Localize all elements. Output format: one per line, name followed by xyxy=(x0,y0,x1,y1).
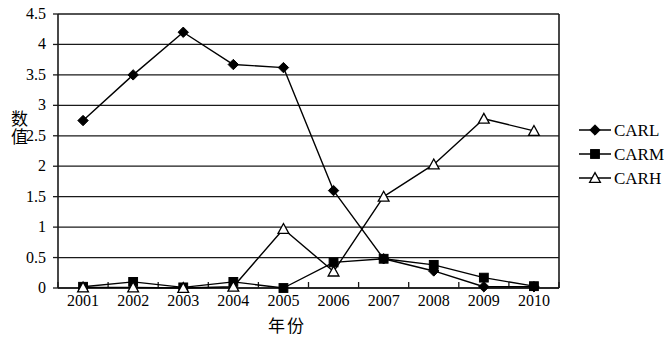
legend-marker-open-triangle xyxy=(578,169,612,187)
y-axis-tick-label: 2.5 xyxy=(0,127,46,145)
legend-marker-filled-square xyxy=(578,145,612,163)
x-axis-tick-label: 2007 xyxy=(368,292,400,310)
series-carl xyxy=(78,27,539,292)
x-axis-tick-label: 2008 xyxy=(418,292,450,310)
plot-area xyxy=(0,0,669,339)
data-point-marker-triangle xyxy=(478,113,489,123)
y-axis-tick-label: 4.5 xyxy=(0,5,46,23)
y-axis-tick-label: 0.5 xyxy=(0,249,46,267)
series-line xyxy=(83,32,534,287)
legend-label: CARM xyxy=(614,146,664,163)
y-axis-tick-label: 4 xyxy=(0,35,46,53)
x-axis-tick-label: 2001 xyxy=(67,292,99,310)
y-axis-tick-label: 3.5 xyxy=(0,66,46,84)
axes xyxy=(58,14,559,288)
data-point-marker-diamond xyxy=(479,282,489,292)
y-axis-tick-label: 0 xyxy=(0,279,46,297)
data-series-layer xyxy=(78,27,540,292)
y-axis-tick-label: 1.5 xyxy=(0,188,46,206)
legend-marker-filled-diamond xyxy=(578,121,612,139)
data-point-marker-diamond xyxy=(590,125,600,135)
y-axis-tick-label: 1 xyxy=(0,218,46,236)
series-line xyxy=(83,119,534,288)
legend-item-carh[interactable]: CARH xyxy=(578,166,664,190)
data-point-marker-diamond xyxy=(228,59,238,69)
x-axis-tick-label: 2005 xyxy=(267,292,299,310)
data-point-marker-square xyxy=(479,273,488,282)
x-axis-tick-label: 2002 xyxy=(117,292,149,310)
legend-item-carl[interactable]: CARL xyxy=(578,118,664,142)
legend: CARLCARMCARH xyxy=(578,118,664,190)
gridlines xyxy=(53,14,559,288)
legend-label: CARL xyxy=(614,122,659,139)
x-axis-tick-label: 2006 xyxy=(318,292,350,310)
y-axis-tick-label: 3 xyxy=(0,96,46,114)
data-point-marker-diamond xyxy=(328,185,338,195)
data-point-marker-triangle xyxy=(278,224,289,234)
x-axis-tick-label: 2004 xyxy=(217,292,249,310)
x-axis-tick-label: 2003 xyxy=(167,292,199,310)
data-point-marker-square xyxy=(530,282,539,291)
line-chart: 数值 年份 00.511.522.533.544.5 2001200220032… xyxy=(0,0,669,339)
data-point-marker-square xyxy=(591,150,600,159)
x-axis-tick-label: 2009 xyxy=(468,292,500,310)
legend-label: CARH xyxy=(614,170,661,187)
x-axis-title: 年份 xyxy=(268,312,306,337)
series-carh xyxy=(78,113,540,292)
data-point-marker-square xyxy=(429,260,438,269)
x-axis-tick-label: 2010 xyxy=(518,292,550,310)
legend-item-carm[interactable]: CARM xyxy=(578,142,664,166)
data-point-marker-square xyxy=(379,254,388,263)
y-axis-tick-label: 2 xyxy=(0,157,46,175)
data-point-marker-diamond xyxy=(278,62,288,72)
